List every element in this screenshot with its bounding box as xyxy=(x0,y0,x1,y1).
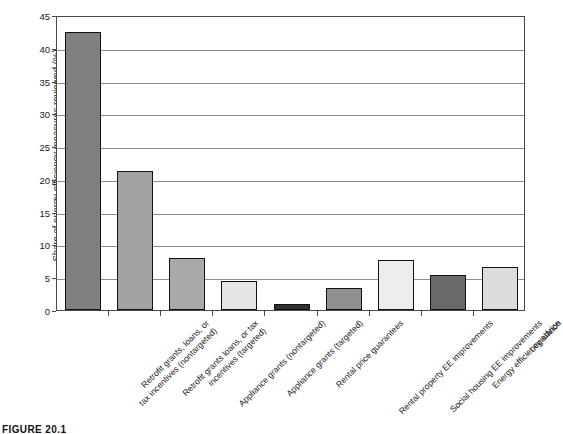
x-axis-category-label: Appliance grants (targeted) xyxy=(285,318,366,399)
x-label-line: Rental price guarantees xyxy=(333,318,405,390)
figure-caption: FIGURE 20.1 xyxy=(2,424,66,434)
x-axis-category-label: Rental property EE improvements xyxy=(396,318,495,417)
x-axis-category-label: Rental price guarantees xyxy=(333,318,405,390)
x-label-line: Rental property EE improvements xyxy=(396,318,495,417)
x-axis-category-label: Social housing EE improvements xyxy=(448,318,545,415)
x-label-line: Social housing EE improvements xyxy=(448,318,545,415)
x-label-line: Appliance grants (targeted) xyxy=(285,318,366,399)
